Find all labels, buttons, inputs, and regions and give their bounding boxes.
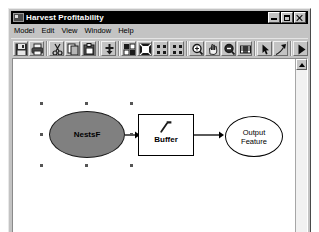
selection-handle-n[interactable] <box>85 102 88 105</box>
menubar: Model Edit View Window Help <box>11 25 308 37</box>
input-variable-label: NestsF <box>74 130 101 139</box>
connect-tool-button[interactable] <box>273 41 288 56</box>
auto-layout-button[interactable] <box>121 41 136 56</box>
minimize-button[interactable] <box>268 12 280 23</box>
validate-button[interactable] <box>137 41 152 56</box>
window-titlebar[interactable]: Harvest Profitability <box>11 11 308 24</box>
menu-model[interactable]: Model <box>14 25 34 37</box>
buffer-tool-shape[interactable]: Buffer <box>138 114 194 156</box>
buffer-tool[interactable]: Buffer <box>138 114 194 156</box>
model-canvas-frame: NestsF <box>12 58 308 232</box>
print-button[interactable] <box>29 41 44 56</box>
selection-handle-w[interactable] <box>40 133 43 136</box>
selection-handle-ne[interactable] <box>130 102 133 105</box>
window-controls <box>268 12 308 23</box>
menu-view[interactable]: View <box>61 25 77 37</box>
vertical-scrollbar[interactable] <box>295 59 307 232</box>
input-data-variable[interactable]: NestsF <box>49 111 125 158</box>
buffer-tool-label: Buffer <box>139 135 193 144</box>
output-variable-label-line1: Output <box>243 128 266 137</box>
model-document-icon <box>13 13 24 22</box>
input-ellipse-shape[interactable]: NestsF <box>49 111 125 158</box>
menu-window[interactable]: Window <box>85 25 112 37</box>
close-button[interactable] <box>294 12 306 23</box>
save-button[interactable] <box>13 41 28 56</box>
menu-help[interactable]: Help <box>118 25 133 37</box>
selection-handle-sw[interactable] <box>40 164 43 167</box>
zoom-in-button[interactable] <box>189 41 204 56</box>
model-canvas[interactable]: NestsF <box>13 59 296 232</box>
output-data-variable[interactable]: Output Feature <box>225 116 283 157</box>
full-extent-button[interactable] <box>237 41 252 56</box>
output-variable-label-line2: Feature <box>241 137 267 146</box>
cut-button[interactable] <box>49 41 64 56</box>
pan-button[interactable] <box>205 41 220 56</box>
selection-handle-nw[interactable] <box>40 102 43 105</box>
maximize-button[interactable] <box>281 12 293 23</box>
select-tool-button[interactable] <box>257 41 272 56</box>
connector-output-arrowhead <box>219 132 224 139</box>
model-builder-window: Harvest Profitability Model Edit View Wi… <box>8 8 311 232</box>
selection-handle-e[interactable] <box>130 133 133 136</box>
paste-button[interactable] <box>81 41 96 56</box>
run-button[interactable] <box>293 41 308 56</box>
screenshot-root: Harvest Profitability Model Edit View Wi… <box>0 0 319 232</box>
selection-handle-s[interactable] <box>85 164 88 167</box>
selection-handle-se[interactable] <box>130 164 133 167</box>
scroll-up-arrow-icon[interactable] <box>296 59 307 70</box>
add-data-button[interactable] <box>101 41 116 56</box>
vertical-scrollbar-track[interactable] <box>296 70 307 232</box>
output-ellipse-shape[interactable]: Output Feature <box>225 116 283 157</box>
window-title: Harvest Profitability <box>26 11 104 24</box>
zoom-out-button[interactable] <box>221 41 236 56</box>
diagram-properties-button[interactable] <box>153 41 168 56</box>
copy-button[interactable] <box>65 41 80 56</box>
toolbar <box>11 38 308 57</box>
model-report-button[interactable] <box>169 41 184 56</box>
menu-edit[interactable]: Edit <box>41 25 54 37</box>
